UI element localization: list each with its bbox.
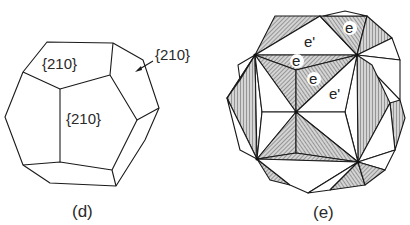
vertex [294,110,297,113]
pyritohedron-diagram: {210} {210} {210} (d) [5,42,190,221]
edge [110,75,159,120]
face-label-e-prime: e' [304,33,315,50]
crystal-figures: {210} {210} {210} (d) [0,0,410,225]
vertex [355,53,358,56]
caption-e: (e) [313,203,334,222]
vertex [255,157,258,160]
arrowhead-icon [135,66,142,72]
caption-d: (d) [72,202,93,221]
face-label-e: e [292,52,300,69]
face-label-e: e [309,70,317,87]
face-label-front: {210} [66,110,101,127]
face-label-side: {210} [155,46,190,63]
vertex [356,160,359,163]
face [323,11,367,16]
face-label-e: e [345,19,353,36]
face-label-top: {210} [42,55,77,72]
vertex [253,53,256,56]
edge [112,120,137,170]
face-label-e-prime: e' [329,85,340,102]
twinned-crystal-diagram: e e' e e e' (e) [227,11,405,222]
